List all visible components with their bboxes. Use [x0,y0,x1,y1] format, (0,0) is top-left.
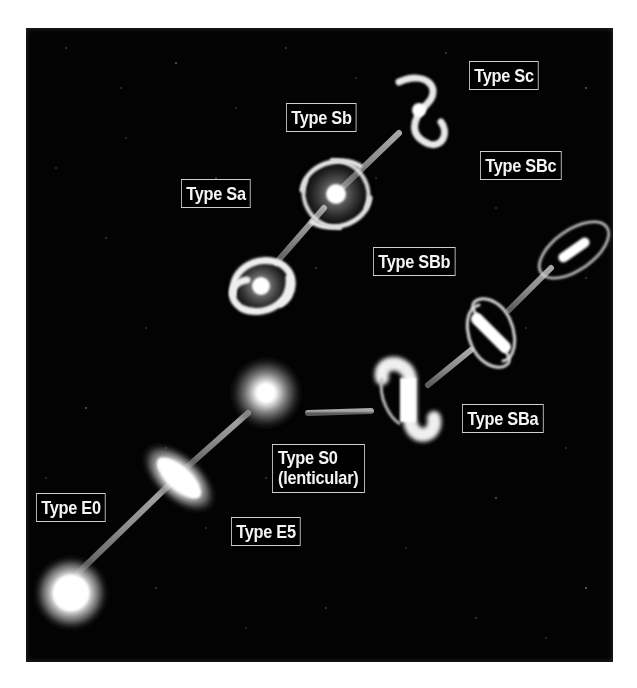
galaxy-sba [381,364,434,435]
label-type-s0: Type S0 (lenticular) [272,444,364,493]
label-type-s0-line2: (lenticular) [278,468,358,488]
label-type-s0-line1: Type S0 [278,448,358,468]
label-type-e5: Type E5 [231,517,301,546]
label-type-sbb: Type SBb [373,247,455,276]
label-type-e0: Type E0 [36,493,106,522]
label-type-sa: Type Sa [181,179,251,208]
tuning-fork-panel: Type E0 Type E5 Type S0 (lenticular) Typ… [26,28,613,662]
galaxy-s0 [228,355,304,431]
diagram-canvas: Type E0 Type E5 Type S0 (lenticular) Typ… [0,0,637,688]
label-type-sbc: Type SBc [480,151,562,180]
label-type-sb: Type Sb [286,103,357,132]
galaxy-sb [298,156,374,232]
label-type-sba: Type SBa [462,404,544,433]
galaxy-e0 [33,555,109,631]
galaxy-sa [227,252,295,320]
galaxy-sc [399,78,445,145]
label-type-sc: Type Sc [469,61,539,90]
